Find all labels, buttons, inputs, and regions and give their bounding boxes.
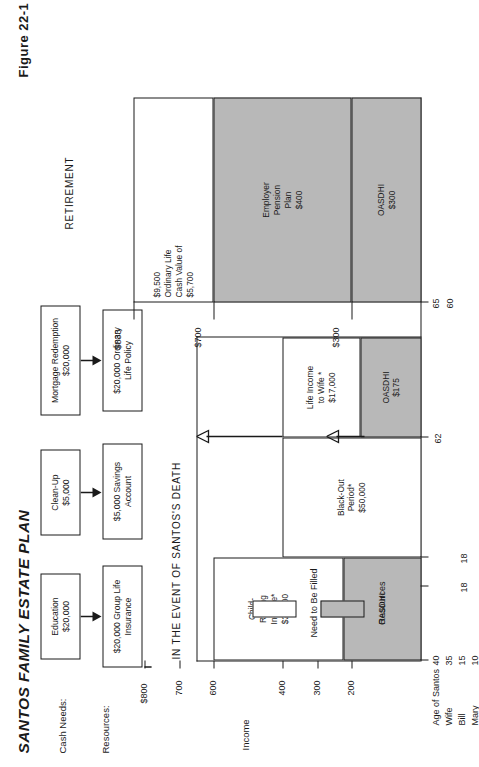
income-axis-label: Income bbox=[240, 719, 251, 750]
resource-line2: Life Policy bbox=[122, 310, 133, 410]
row-label-age-of-santos: Age of Santos bbox=[430, 668, 440, 725]
cash-need-box-cleanup: Clean-Up $5,000 bbox=[40, 449, 80, 535]
resource-line1: $5,000 Savings bbox=[111, 444, 122, 538]
value-wife-start: 35 bbox=[443, 655, 453, 665]
cash-need-amount: $20,000 bbox=[60, 574, 71, 658]
value-bill-start: 15 bbox=[456, 655, 466, 665]
row-label-wife: Wife bbox=[443, 707, 453, 725]
y-tick-700 bbox=[179, 660, 180, 668]
marker-line-833 bbox=[133, 301, 134, 319]
resource-box-group-life: $20,000 Group Life Insurance bbox=[102, 565, 142, 667]
bar-amount: $400 bbox=[293, 190, 303, 209]
x-label-65: 65 bbox=[430, 298, 440, 308]
arrow-up-oasdhi-blackout bbox=[326, 427, 366, 445]
death-region-right-rule bbox=[196, 336, 421, 337]
bar-amount: $300 bbox=[386, 190, 396, 209]
y-tick-label-800: $800 bbox=[138, 683, 148, 703]
bar-label-line2: Ordinary Life bbox=[162, 249, 172, 297]
y-tick-label-400: 400 bbox=[276, 680, 286, 695]
value-label-300: $300 bbox=[330, 327, 340, 347]
retirement-section-header: RETIREMENT bbox=[63, 156, 75, 229]
y-tick-300 bbox=[317, 660, 318, 668]
x-label-60: 60 bbox=[444, 298, 454, 308]
legend-swatch-resources bbox=[320, 600, 364, 617]
x-label-62: 62 bbox=[432, 433, 442, 443]
x-label-mary-18: 18 bbox=[458, 553, 468, 563]
value-mary-start: 10 bbox=[469, 655, 479, 665]
bar-retirement-oasdhi: OASDHI $300 bbox=[351, 97, 421, 302]
page-title: SANTOS FAMILY ESTATE PLAN bbox=[14, 509, 32, 753]
bar-amount: $5,700 bbox=[184, 271, 194, 297]
cash-need-box-mortgage: Mortgage Redemption $20,000 bbox=[40, 305, 80, 415]
arrow-up-life-income bbox=[196, 427, 284, 445]
resource-box-savings: $5,000 Savings Account bbox=[102, 443, 142, 539]
bar-label-line3: Plan bbox=[282, 191, 292, 208]
bar-label-line1: $9,500 bbox=[151, 271, 161, 297]
marker-line-300 bbox=[351, 301, 352, 319]
bar-label-line1: OASDHI bbox=[375, 183, 385, 215]
row-label-mary: Mary bbox=[469, 705, 479, 725]
bar-blackout-need: Black-Out Period* $50,000 bbox=[282, 437, 421, 557]
row-label-bill: Bill bbox=[456, 713, 466, 725]
value-age-santos-start: 40 bbox=[430, 655, 440, 665]
bar-life-income-oasdhi: OASDHI $175 bbox=[360, 337, 421, 437]
bar-label-line3: Cash Value of bbox=[173, 245, 183, 297]
legend-swatch-need-to-be-filled bbox=[252, 600, 296, 617]
cash-need-name: Education bbox=[49, 574, 60, 658]
x-label-bill-18: 18 bbox=[458, 582, 468, 592]
bar-label-line2: to Wife * bbox=[316, 371, 326, 403]
x-tick-18-bill bbox=[420, 585, 428, 586]
death-section-header: IN THE EVENT OF SANTOS'S DEATH bbox=[170, 462, 182, 659]
figure-label: Figure 22-1 bbox=[16, 2, 31, 77]
resource-line1: $20,000 Group Life bbox=[111, 566, 122, 666]
x-tick-62 bbox=[420, 436, 428, 437]
y-tick-200 bbox=[351, 660, 352, 668]
legend-label-need-to-be-filled: Need to Be Filled bbox=[308, 568, 318, 637]
bar-label-line1: Black-Out bbox=[335, 479, 345, 516]
y-tick-800 bbox=[144, 660, 145, 668]
death-region-top-rule bbox=[196, 336, 197, 661]
bar-amount: $17,000 bbox=[326, 372, 336, 402]
x-tick-40 bbox=[420, 659, 428, 660]
y-tick-600 bbox=[213, 660, 214, 668]
bar-label-line2: Pension bbox=[271, 184, 281, 214]
bar-label-line1: Life Income bbox=[305, 365, 315, 408]
bar-label-line1: Employer bbox=[260, 182, 270, 217]
arrow-down-mortgage bbox=[80, 350, 102, 370]
cash-need-name: Mortgage Redemption bbox=[49, 306, 60, 414]
resources-label: Resources: bbox=[100, 705, 111, 753]
value-label-700: $700 bbox=[192, 327, 202, 347]
y-tick-label-300: 300 bbox=[311, 680, 321, 695]
marker-line-700 bbox=[213, 301, 214, 319]
arrow-down-cleanup bbox=[80, 482, 102, 502]
y-tick-label-200: 200 bbox=[345, 680, 355, 695]
cash-need-name: Clean-Up bbox=[49, 450, 60, 534]
bar-life-income-need: Life Income to Wife * $17,000 bbox=[282, 337, 360, 437]
cash-needs-label: Cash Needs: bbox=[57, 698, 68, 753]
legend-label-resources: Resources bbox=[376, 581, 386, 624]
bar-label-line2: Period* bbox=[346, 483, 356, 510]
cash-need-amount: $20,000 bbox=[60, 306, 71, 414]
x-tick-65 bbox=[420, 301, 428, 302]
resource-line1: $20,000 Ordinary bbox=[111, 310, 122, 410]
bar-employer-pension: Employer Pension Plan $400 bbox=[213, 97, 351, 302]
resource-box-ordinary-life: $20,000 Ordinary Life Policy bbox=[102, 309, 142, 411]
value-label-833: $833 bbox=[112, 329, 122, 349]
bar-label-line2: $175 bbox=[391, 378, 401, 397]
cash-need-amount: $5,000 bbox=[60, 450, 71, 534]
bar-amount: $50,000 bbox=[357, 482, 367, 512]
arrow-down-education bbox=[80, 606, 102, 626]
x-tick-18-mary bbox=[420, 556, 428, 557]
y-tick-400 bbox=[282, 660, 283, 668]
resource-line2: Insurance bbox=[122, 566, 133, 666]
bar-retirement-need: $9,500 Ordinary Life Cash Value of $5,70… bbox=[133, 97, 213, 302]
y-tick-label-600: 600 bbox=[207, 680, 217, 695]
bar-label-line1: OASDHI bbox=[380, 371, 390, 403]
y-tick-label-700: 700 bbox=[173, 680, 183, 695]
resource-line2: Account bbox=[122, 444, 133, 538]
cash-need-box-education: Education $20,000 bbox=[40, 573, 80, 659]
